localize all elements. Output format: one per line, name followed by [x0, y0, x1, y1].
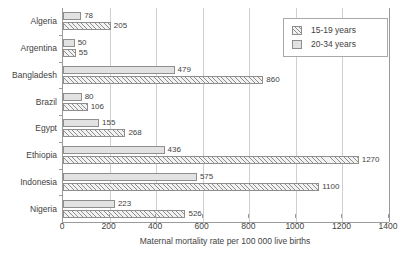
x-axis-tick-label: 1400	[379, 221, 398, 231]
y-axis-category-label: Algeria	[31, 17, 57, 26]
y-axis-category-label: Brazil	[36, 98, 57, 107]
y-axis-category-label: Ethiopia	[26, 151, 57, 160]
y-axis-category-label: Egypt	[35, 124, 57, 133]
bar-value-label: 1270	[362, 156, 380, 164]
bar-value-label: 526	[188, 210, 201, 218]
y-axis-tick	[59, 169, 63, 170]
bar	[63, 129, 125, 137]
legend-swatch	[292, 26, 302, 35]
bar	[63, 49, 76, 57]
plot-frame-right	[389, 8, 390, 222]
bar	[63, 39, 75, 47]
y-axis-tick	[59, 62, 63, 63]
legend-label: 15-19 years	[311, 25, 356, 35]
y-axis-category-label: Argentina	[21, 44, 57, 53]
x-axis-tick-label: 600	[195, 221, 209, 231]
bar	[63, 183, 319, 191]
legend-swatch	[292, 40, 302, 49]
y-axis-tick	[59, 88, 63, 89]
bar	[63, 12, 81, 20]
bar-value-label: 80	[85, 93, 94, 101]
chart-legend: 15-19 years20-34 years	[283, 18, 388, 57]
y-axis-category-label: Indonesia	[20, 178, 57, 187]
y-axis-tick	[59, 115, 63, 116]
bar	[63, 119, 99, 127]
bar-value-label: 155	[102, 119, 115, 127]
bar-value-label: 575	[200, 173, 213, 181]
y-axis-tick	[59, 195, 63, 196]
bar-value-label: 479	[178, 66, 191, 74]
bar-value-label: 860	[266, 76, 279, 84]
legend-entry: 20-34 years	[284, 37, 387, 51]
y-axis-category-label: Bangladesh	[12, 71, 57, 80]
bar	[63, 146, 165, 154]
x-axis-tick-label: 1200	[332, 221, 351, 231]
y-axis-category-label: Nigeria	[30, 205, 57, 214]
x-axis-tick	[341, 214, 342, 218]
bar-value-label: 223	[118, 200, 131, 208]
bar-value-label: 50	[78, 39, 87, 47]
legend-entry: 15-19 years	[284, 23, 387, 37]
x-axis-tick-label: 400	[148, 221, 162, 231]
bar-value-label: 1100	[322, 183, 339, 191]
x-axis-tick-label: 800	[241, 221, 255, 231]
bar	[63, 156, 359, 164]
x-axis-tick	[248, 214, 249, 218]
bar-value-label: 106	[91, 103, 104, 111]
x-axis-tick	[62, 214, 63, 218]
bar	[63, 200, 115, 208]
bar	[63, 103, 88, 111]
bar	[63, 210, 185, 218]
y-axis-tick	[59, 35, 63, 36]
bar-value-label: 436	[168, 146, 181, 154]
bar-value-label: 55	[79, 49, 88, 57]
bar-value-label: 78	[84, 12, 93, 20]
x-axis-tick-label: 0	[60, 221, 65, 231]
bar	[63, 22, 111, 30]
x-axis-tick	[202, 214, 203, 218]
bar-value-label: 268	[128, 129, 141, 137]
x-axis-tick-label: 1000	[285, 221, 304, 231]
x-axis-tick	[109, 214, 110, 218]
bar	[63, 173, 197, 181]
x-axis-tick-label: 200	[101, 221, 115, 231]
bar	[63, 76, 263, 84]
bar	[63, 66, 175, 74]
bar	[63, 93, 82, 101]
x-axis-title: Maternal mortality rate per 100 000 live…	[62, 236, 388, 246]
bar-chart: 7820550554798608010615526843612705751100…	[0, 0, 406, 254]
x-axis-tick	[155, 214, 156, 218]
legend-label: 20-34 years	[311, 39, 356, 49]
bar-value-label: 205	[114, 22, 127, 30]
y-axis-tick	[59, 142, 63, 143]
x-axis-tick	[295, 214, 296, 218]
x-axis-tick	[388, 214, 389, 218]
